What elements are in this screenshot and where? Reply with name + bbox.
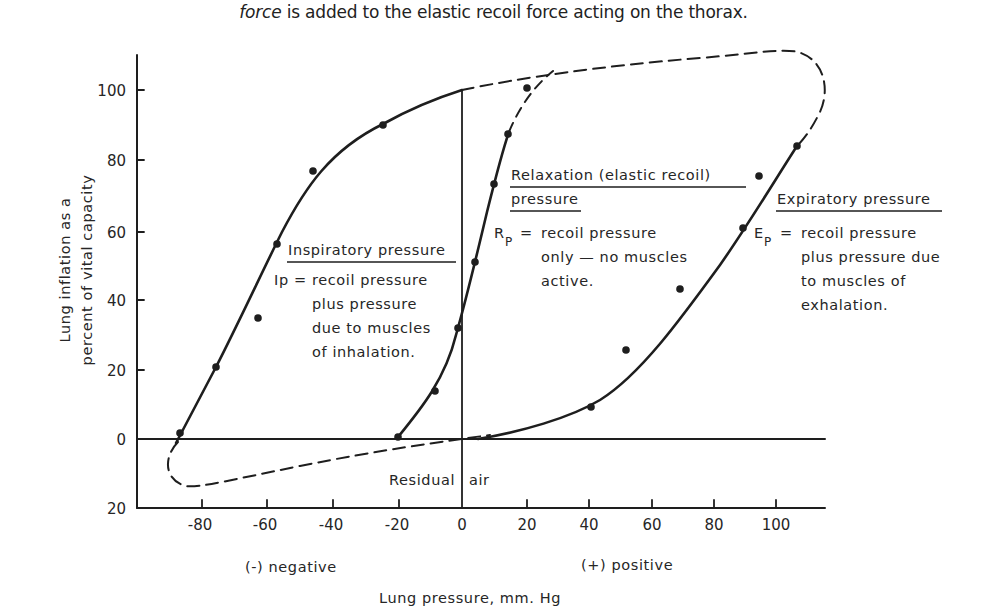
y-tick-label: 60 [107, 224, 126, 242]
expiratory-equals: = [780, 225, 793, 241]
inspiratory-line: of inhalation. [312, 344, 416, 360]
expiratory-point [622, 346, 630, 354]
relaxation-line: only — no muscles [541, 249, 688, 265]
x-tick-label: 40 [579, 516, 598, 534]
x-tick-label: -60 [253, 516, 278, 534]
y-tick-label: 100 [97, 82, 126, 100]
x-tick-label: -40 [319, 516, 344, 534]
relaxation-point [431, 387, 439, 395]
expiratory-point [739, 224, 747, 232]
relaxation-line: active. [541, 273, 594, 289]
relaxation-point [490, 180, 498, 188]
relaxation-point [454, 324, 462, 332]
x-tick-label: -80 [188, 516, 213, 534]
expiratory-symbol-sub: P [764, 235, 771, 249]
x-tick-label: -20 [385, 516, 410, 534]
x-tick-label: 100 [762, 516, 791, 534]
expiratory-point [676, 285, 684, 293]
y-axis-title-line2: percent of vital capacity [79, 175, 95, 366]
inspiratory-curve [176, 90, 462, 443]
expiratory-point [587, 403, 595, 411]
relaxation-point [471, 258, 479, 266]
inspiratory-symbol: Ip = [274, 272, 307, 288]
relaxation-annotation: Relaxation (elastic recoil) pressure R P… [494, 167, 746, 289]
y-tick-label: 20 [107, 362, 126, 380]
expiratory-symbol: E [754, 225, 764, 241]
inspiratory-point [212, 363, 220, 371]
x-tick-label: 0 [457, 516, 467, 534]
inspiratory-title: Inspiratory pressure [288, 242, 445, 258]
relaxation-dashed-extension [509, 71, 553, 132]
relaxation-symbol: R [494, 225, 505, 241]
expiratory-line: recoil pressure [801, 225, 917, 241]
inspiratory-point [273, 240, 281, 248]
relaxation-point [504, 130, 512, 138]
inspiratory-line: due to muscles [312, 320, 431, 336]
y-axis-title-line1: Lung inflation as a [57, 198, 73, 343]
relaxation-point [523, 84, 531, 92]
inspiratory-annotation: Inspiratory pressure Ip = recoil pressur… [274, 242, 456, 360]
expiratory-point [755, 172, 763, 180]
inspiratory-point [309, 167, 317, 175]
negative-region-label: (-) negative [245, 559, 337, 575]
inspiratory-point [176, 429, 184, 437]
inspiratory-point [379, 121, 387, 129]
x-axis-title: Lung pressure, mm. Hg [379, 590, 561, 606]
expiratory-line: plus pressure due [801, 249, 940, 265]
x-ticks [202, 500, 776, 508]
expiratory-title: Expiratory pressure [777, 191, 931, 207]
relaxation-point [394, 433, 402, 441]
x-tick-labels: -80 -60 -40 -20 0 20 40 60 80 100 [188, 516, 791, 534]
residual-air-label-right: air [469, 472, 490, 488]
residual-air-label-left: Residual [389, 472, 455, 488]
relaxation-equals: = [520, 225, 533, 241]
x-tick-label: 60 [642, 516, 661, 534]
x-tick-label: 80 [704, 516, 723, 534]
expiratory-line: exhalation. [801, 297, 888, 313]
max-pressure-envelope-top [462, 51, 825, 146]
expiratory-annotation: Expiratory pressure E P = recoil pressur… [754, 191, 942, 313]
y-axis-title: Lung inflation as a percent of vital cap… [57, 175, 95, 366]
y-tick-labels: 100 80 60 40 20 0 20 [97, 82, 126, 518]
y-tick-label: 0 [116, 431, 126, 449]
lung-pressure-chart: 100 80 60 40 20 0 20 -80 -60 -40 -20 0 2… [0, 0, 987, 616]
y-tick-label: 40 [107, 292, 126, 310]
x-tick-label: 20 [517, 516, 536, 534]
inspiratory-line: recoil pressure [312, 272, 428, 288]
relaxation-title-line1: Relaxation (elastic recoil) [511, 167, 711, 183]
expiratory-point [793, 142, 801, 150]
data-points [176, 84, 801, 441]
positive-region-label: (+) positive [581, 557, 673, 573]
relaxation-line: recoil pressure [541, 225, 657, 241]
expiratory-line: to muscles of [801, 273, 906, 289]
inspiratory-point [254, 314, 262, 322]
y-ticks [137, 90, 144, 370]
relaxation-symbol-sub: P [505, 235, 512, 249]
y-tick-label: 20 [107, 500, 126, 518]
y-tick-label: 80 [107, 152, 126, 170]
expiratory-curve [478, 146, 797, 439]
relaxation-title-line2: pressure [511, 191, 578, 207]
inspiratory-line: plus pressure [312, 296, 417, 312]
